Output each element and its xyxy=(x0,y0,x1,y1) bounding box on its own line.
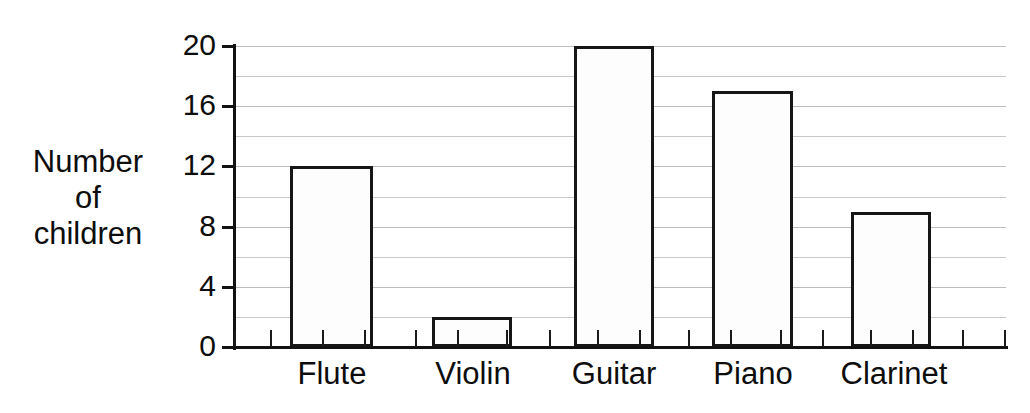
y-tick-label: 20 xyxy=(146,30,216,60)
x-tick-mark xyxy=(870,330,872,347)
x-axis-label-clarinet: Clarinet xyxy=(824,356,964,392)
y-tick-label: 0 xyxy=(146,331,216,361)
y-tick-mark xyxy=(222,226,235,229)
x-tick-mark xyxy=(822,330,824,347)
x-axis-label-flute: Flute xyxy=(272,356,392,392)
x-tick-mark xyxy=(688,330,690,347)
x-tick-mark xyxy=(1004,330,1006,347)
x-tick-mark xyxy=(415,330,417,347)
x-tick-mark xyxy=(639,330,641,347)
bar-piano xyxy=(712,91,793,347)
y-tick-label: 12 xyxy=(146,150,216,180)
y-tick-mark xyxy=(222,286,235,289)
bar-flute xyxy=(290,166,373,347)
y-axis-title-line-3: children xyxy=(8,216,168,252)
x-tick-mark xyxy=(912,330,914,347)
x-tick-mark xyxy=(506,330,508,347)
x-axis-label-violin: Violin xyxy=(412,356,534,392)
x-tick-mark xyxy=(270,330,272,347)
plot-area xyxy=(233,46,1006,347)
x-axis-line xyxy=(231,346,1008,349)
y-axis-title-line-2: of xyxy=(8,180,168,216)
y-tick-label: 8 xyxy=(146,211,216,241)
y-tick-label-wrap: 4 xyxy=(146,271,216,301)
y-tick-label-wrap: 20 xyxy=(146,30,216,60)
y-tick-label: 16 xyxy=(146,90,216,120)
x-tick-mark xyxy=(549,330,551,347)
bar-guitar xyxy=(574,46,654,347)
x-tick-mark xyxy=(364,330,366,347)
y-tick-mark xyxy=(222,45,235,48)
y-tick-label-wrap: 0 xyxy=(146,331,216,361)
bar-clarinet xyxy=(851,212,931,347)
y-tick-label-wrap: 12 xyxy=(146,150,216,180)
bar-violin xyxy=(432,317,512,347)
x-tick-mark xyxy=(962,330,964,347)
x-tick-mark xyxy=(730,330,732,347)
y-axis-title-line-1: Number xyxy=(8,144,168,180)
x-tick-mark xyxy=(597,330,599,347)
x-axis-label-piano: Piano xyxy=(692,356,814,392)
y-tick-label-wrap: 16 xyxy=(146,90,216,120)
bar-chart-figure: Number of children 201612840 FluteViolin… xyxy=(0,0,1030,413)
x-tick-mark xyxy=(234,330,236,347)
x-tick-mark xyxy=(780,330,782,347)
y-tick-label-wrap: 8 xyxy=(146,211,216,241)
y-tick-mark xyxy=(222,105,235,108)
y-axis-line xyxy=(233,44,236,350)
y-tick-label: 4 xyxy=(146,271,216,301)
x-axis-label-guitar: Guitar xyxy=(552,356,676,392)
y-axis-title: Number of children xyxy=(8,144,168,252)
x-tick-mark xyxy=(457,330,459,347)
x-tick-mark xyxy=(322,330,324,347)
y-tick-mark xyxy=(222,165,235,168)
